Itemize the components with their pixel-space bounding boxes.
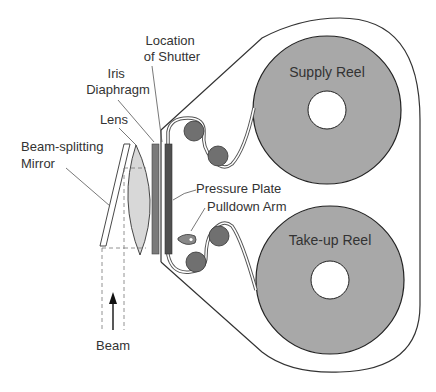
beam-splitting-mirror — [100, 144, 130, 246]
shutter-leader — [152, 66, 162, 142]
beam-arrow-icon — [109, 292, 117, 330]
takeup-reel-hub — [311, 261, 349, 299]
supply-reel-label: Supply Reel — [289, 64, 365, 80]
roller-lower-1 — [209, 226, 229, 246]
film-camera-diagram: Supply Reel Take-up Reel Location — [0, 0, 436, 392]
supply-reel: Supply Reel — [253, 36, 401, 184]
roller-upper-2 — [208, 146, 228, 166]
mirror-label: Beam-splitting Mirror — [21, 139, 107, 171]
pressure-plate-leader — [173, 190, 196, 200]
supply-reel-hub — [308, 91, 346, 129]
pulldown-arm-label: Pulldown Arm — [207, 199, 286, 214]
pulldown-arm — [178, 234, 196, 244]
roller-lower-2 — [186, 252, 206, 272]
pressure-plate-label: Pressure Plate — [196, 181, 281, 196]
lens-leader — [119, 128, 136, 145]
takeup-reel-label: Take-up Reel — [289, 232, 372, 248]
lens — [128, 145, 150, 255]
iris-diaphragm-bar — [152, 144, 159, 254]
roller-upper-1 — [184, 121, 204, 141]
lens-label: Lens — [100, 112, 129, 127]
mirror-leader — [66, 168, 110, 206]
takeup-reel: Take-up Reel — [256, 206, 404, 354]
shutter-label: Location of Shutter — [144, 33, 201, 64]
iris-label: Iris Diaphragm — [86, 66, 150, 97]
pulldown-arm-leader — [191, 208, 205, 231]
beam-label: Beam — [96, 338, 130, 353]
pressure-plate-bar — [165, 144, 172, 254]
